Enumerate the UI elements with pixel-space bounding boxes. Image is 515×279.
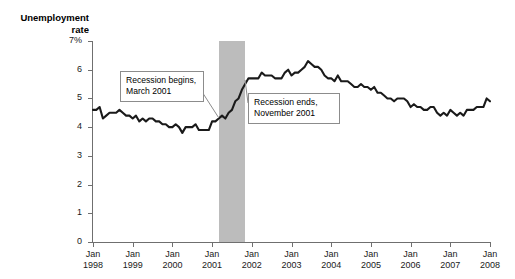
x-axis-label: Jan 2008 [468, 249, 512, 271]
y-axis-label: 1 [42, 207, 82, 217]
x-axis-label: Jan 2002 [230, 249, 274, 271]
x-axis-tick [133, 243, 134, 247]
chart-title: Unemployment rate [0, 12, 89, 35]
x-axis-tick [411, 243, 412, 247]
x-axis-label: Jan 2005 [349, 249, 393, 271]
x-axis-label: Jan 2006 [389, 249, 433, 271]
y-axis-label: 5 [42, 92, 82, 102]
x-axis-label: Jan 1998 [71, 249, 115, 271]
x-axis-tick [172, 243, 173, 247]
y-axis-label: 7% [42, 35, 82, 45]
y-axis-tick [88, 127, 93, 128]
annotation-recession-ends: Recession ends, November 2001 [248, 93, 340, 124]
y-axis-label: 3 [42, 150, 82, 160]
x-axis-label: Jan 1999 [111, 249, 155, 271]
recession-shaded-band [219, 41, 245, 242]
y-axis-tick [88, 70, 93, 71]
y-axis-label: 0 [42, 236, 82, 246]
y-axis-tick [88, 213, 93, 214]
x-axis-tick [371, 243, 372, 247]
x-axis-tick [450, 243, 451, 247]
x-axis-tick [331, 243, 332, 247]
x-axis-tick [93, 243, 94, 247]
y-axis-tick [88, 98, 93, 99]
y-axis-tick [88, 185, 93, 186]
x-axis-tick [212, 243, 213, 247]
y-axis-label: 2 [42, 179, 82, 189]
x-axis-label: Jan 2000 [150, 249, 194, 271]
y-axis-tick [88, 41, 93, 42]
x-axis-label: Jan 2007 [428, 249, 472, 271]
unemployment-rate-chart: Unemployment rate 7%6543210 Jan 1998Jan … [0, 0, 515, 279]
x-axis-tick [292, 243, 293, 247]
x-axis-label: Jan 2003 [270, 249, 314, 271]
x-axis-label: Jan 2004 [309, 249, 353, 271]
y-axis-label: 6 [42, 64, 82, 74]
y-axis-label: 4 [42, 121, 82, 131]
x-axis-label: Jan 2001 [190, 249, 234, 271]
y-axis-tick [88, 156, 93, 157]
annotation-recession-begins: Recession begins, March 2001 [120, 71, 204, 102]
x-axis-tick [252, 243, 253, 247]
x-axis-tick [490, 243, 491, 247]
